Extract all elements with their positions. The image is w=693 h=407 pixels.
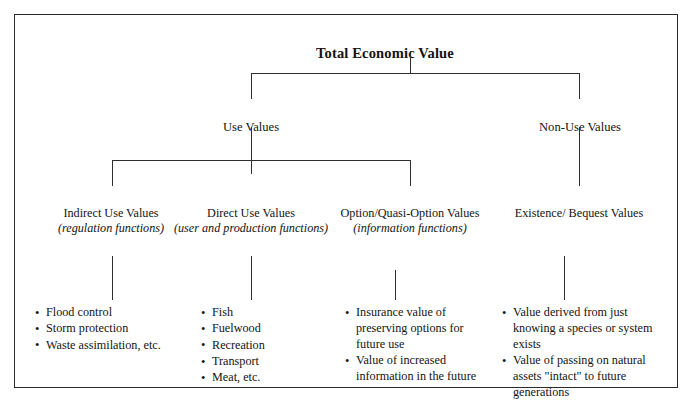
list-item: •Meat, etc. <box>201 370 319 386</box>
list-item: •Fish <box>201 305 319 321</box>
connector-indirect-to-list <box>112 256 113 300</box>
node-non-use-values-label: Non-Use Values <box>539 120 621 134</box>
diagram-canvas: Total Economic Value Use Values Non-Use … <box>0 0 693 407</box>
bullet-icon: • <box>201 354 205 370</box>
bullet-icon: • <box>345 353 349 369</box>
list-indirect-use-values: •Flood control •Storm protection •Waste … <box>35 305 175 354</box>
connector-root-stem <box>410 51 411 73</box>
node-option-quasi-option-values: Option/Quasi-Option Values (information … <box>323 192 497 250</box>
list-item-label: Value derived from just knowing a specie… <box>513 305 652 351</box>
list-item-label: Fuelwood <box>212 321 261 335</box>
connector-to-use-values <box>251 73 252 99</box>
list-item-label: Value of increased information in the fu… <box>356 353 476 383</box>
bullet-icon: • <box>502 305 506 321</box>
list-item: •Flood control <box>35 305 175 321</box>
list-existence-bequest-values: •Value derived from just knowing a speci… <box>502 305 662 401</box>
node-direct-use-values: Direct Use Values (user and production f… <box>170 192 332 250</box>
node-existence-bequest-values: Existence/ Bequest Values <box>505 192 653 235</box>
node-title-label: Total Economic Value <box>316 45 454 61</box>
list-item: •Value of increased information in the f… <box>345 353 485 385</box>
list-item-label: Meat, etc. <box>212 370 260 384</box>
diagram-frame: Total Economic Value Use Values Non-Use … <box>14 14 678 388</box>
category-subtitle: (user and production functions) <box>170 221 332 235</box>
connector-direct-to-list <box>251 256 252 300</box>
list-item: •Storm protection <box>35 321 175 337</box>
list-item: •Recreation <box>201 338 319 354</box>
bullet-icon: • <box>201 305 205 321</box>
bullet-icon: • <box>35 337 39 353</box>
list-item: •Value of passing on natural assets "int… <box>502 353 662 401</box>
connector-use-values-stem <box>251 127 252 174</box>
category-subtitle: (information functions) <box>323 221 497 235</box>
category-title: Indirect Use Values <box>63 206 158 220</box>
category-title: Option/Quasi-Option Values <box>341 206 480 220</box>
node-total-economic-value: Total Economic Value <box>240 28 530 62</box>
list-item-label: Recreation <box>212 338 265 352</box>
list-option-quasi-option-values: •Insurance value of preserving options f… <box>345 305 485 385</box>
bullet-icon: • <box>345 305 349 321</box>
list-item: •Insurance value of preserving options f… <box>345 305 485 353</box>
connector-option-to-list <box>395 270 396 300</box>
list-item-label: Insurance value of preserving options fo… <box>356 305 464 351</box>
bullet-icon: • <box>35 321 39 337</box>
list-item-label: Storm protection <box>46 321 128 335</box>
bullet-icon: • <box>502 353 506 369</box>
list-direct-use-values: •Fish •Fuelwood •Recreation •Transport •… <box>201 305 319 387</box>
list-item: •Transport <box>201 354 319 370</box>
list-item-label: Transport <box>212 354 259 368</box>
connector-level2-bar <box>251 73 580 74</box>
list-item-label: Fish <box>212 305 233 319</box>
list-item-label: Flood control <box>46 305 112 319</box>
connector-use-branch-bar <box>112 160 410 161</box>
bullet-icon: • <box>201 337 205 353</box>
node-non-use-values: Non-Use Values <box>519 105 641 135</box>
bullet-icon: • <box>35 305 39 321</box>
bullet-icon: • <box>201 321 205 337</box>
list-item-label: Waste assimilation, etc. <box>46 338 161 352</box>
list-item-label: Value of passing on natural assets "inta… <box>513 353 646 399</box>
category-title: Existence/ Bequest Values <box>515 206 643 220</box>
connector-to-option-values <box>410 160 411 186</box>
list-item: •Waste assimilation, etc. <box>35 338 175 354</box>
connector-non-use-values-stem <box>579 127 580 186</box>
category-title: Direct Use Values <box>207 206 295 220</box>
bullet-icon: • <box>201 370 205 386</box>
connector-existence-to-list <box>564 256 565 300</box>
list-item: •Fuelwood <box>201 321 319 337</box>
list-item: •Value derived from just knowing a speci… <box>502 305 662 353</box>
connector-to-indirect-use <box>112 160 113 186</box>
connector-to-non-use-values <box>579 73 580 99</box>
